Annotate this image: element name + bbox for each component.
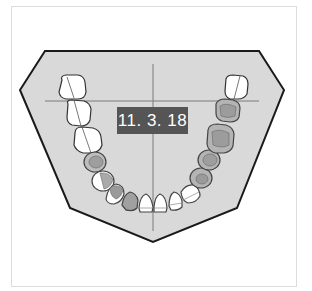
date-label: 11. 3. 18 — [117, 107, 188, 134]
tooth-right-third-molar[interactable] — [59, 75, 86, 99]
tooth-right-first-molar[interactable] — [74, 127, 102, 153]
dental-arch-diagram — [0, 0, 312, 291]
tooth-left-first-molar[interactable] — [207, 124, 234, 153]
tooth-left-third-molar[interactable] — [225, 75, 248, 99]
tooth-right-second-molar[interactable] — [67, 100, 91, 126]
tooth-right-second-premolar[interactable] — [84, 152, 106, 172]
tooth-left-first-premolar[interactable] — [190, 168, 212, 188]
tooth-left-second-molar[interactable] — [216, 99, 240, 122]
